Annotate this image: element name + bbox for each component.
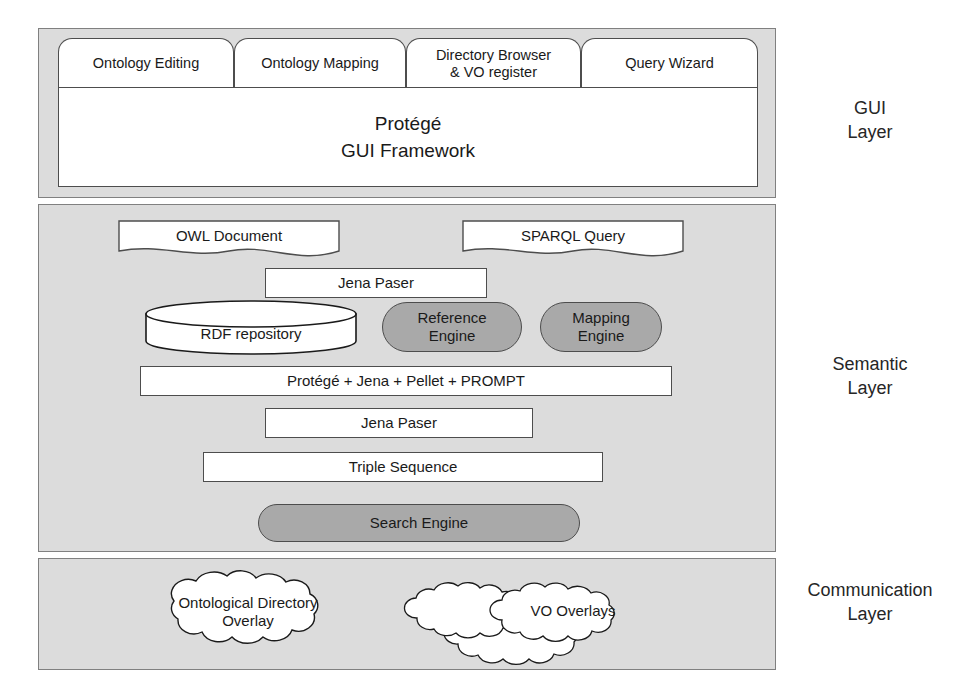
reference-engine-label: Reference Engine	[417, 309, 486, 345]
triple-sequence-label: Triple Sequence	[349, 458, 458, 476]
semantic-layer-caption: Semantic Layer	[790, 352, 950, 400]
jena-paser-top-node: Jena Paser	[265, 268, 487, 298]
protege-gui-framework-label: Protégé GUI Framework	[341, 110, 475, 164]
jena-paser-top-label: Jena Paser	[338, 274, 414, 292]
tab-label: Ontology Editing	[93, 55, 199, 72]
sparql-query-node: SPARQL Query	[462, 220, 684, 262]
tab-label: Query Wizard	[625, 55, 714, 72]
gui-layer-caption: GUI Layer	[790, 96, 950, 144]
ontological-directory-overlay-label: Ontological Directory Overlay	[178, 594, 317, 630]
tab-directory-browser-vo-register[interactable]: Directory Browser & VO register	[406, 38, 581, 88]
gui-tab-strip: Ontology Editing Ontology Mapping Direct…	[58, 38, 758, 88]
tab-label: Ontology Mapping	[261, 55, 379, 72]
sparql-query-label: SPARQL Query	[521, 227, 625, 245]
rdf-repository-node: RDF repository	[145, 300, 357, 355]
mapping-engine-node: Mapping Engine	[540, 302, 662, 352]
vo-overlays-label: VO Overlays	[508, 602, 638, 620]
search-engine-label: Search Engine	[370, 514, 468, 532]
protege-jena-pellet-prompt-node: Protégé + Jena + Pellet + PROMPT	[140, 366, 672, 396]
tab-ontology-editing[interactable]: Ontology Editing	[58, 38, 234, 88]
jena-paser-bottom-label: Jena Paser	[361, 414, 437, 432]
tab-query-wizard[interactable]: Query Wizard	[581, 38, 758, 88]
protege-gui-framework-box: Protégé GUI Framework	[58, 87, 758, 187]
protege-jena-pellet-prompt-label: Protégé + Jena + Pellet + PROMPT	[287, 372, 525, 390]
jena-paser-bottom-node: Jena Paser	[265, 408, 533, 438]
triple-sequence-node: Triple Sequence	[203, 452, 603, 482]
mapping-engine-label: Mapping Engine	[572, 309, 630, 345]
ontological-directory-overlay-node: Ontological Directory Overlay	[128, 570, 368, 654]
vo-overlays-cluster: VO Overlays	[398, 562, 668, 666]
reference-engine-node: Reference Engine	[382, 302, 522, 352]
owl-document-label: OWL Document	[176, 227, 282, 245]
tab-label: Directory Browser & VO register	[436, 47, 551, 81]
rdf-repository-label: RDF repository	[201, 325, 302, 343]
communication-layer-caption: Communication Layer	[790, 578, 950, 626]
tab-ontology-mapping[interactable]: Ontology Mapping	[234, 38, 406, 88]
search-engine-node: Search Engine	[258, 504, 580, 542]
owl-document-node: OWL Document	[118, 220, 340, 262]
architecture-diagram: Ontology Editing Ontology Mapping Direct…	[0, 0, 955, 698]
